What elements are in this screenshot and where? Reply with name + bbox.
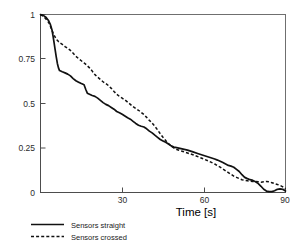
y-ticklabel-0: 0 (30, 188, 35, 198)
y-ticklabel-075: 0.75 (18, 54, 35, 64)
y-ticklabel-05: 0.5 (23, 99, 35, 109)
chart-figure: 1 0.75 0.5 0.25 0 30 60 90 Time [s] (0, 0, 304, 246)
figure-background (0, 0, 304, 246)
y-ticklabel-1: 1 (30, 10, 35, 20)
line-chart-svg: 1 0.75 0.5 0.25 0 30 60 90 Time [s] (0, 0, 304, 246)
legend-label-sensors-crossed: Sensors crossed (71, 233, 127, 242)
x-ticklabel-90: 90 (280, 195, 290, 205)
x-ticklabel-60: 60 (200, 195, 210, 205)
x-ticklabel-30: 30 (118, 195, 128, 205)
legend-label-sensors-straight: Sensors straight (71, 221, 126, 230)
x-axis-title: Time [s] (176, 206, 216, 218)
y-ticklabel-025: 0.25 (18, 143, 35, 153)
